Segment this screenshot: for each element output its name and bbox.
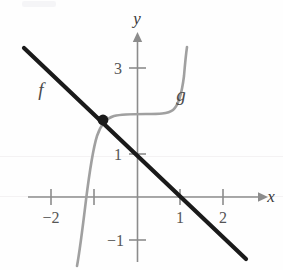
y-tick-label-3: 3 [114,60,122,77]
coordinate-plot: −2 1 2 3 1 −1 f g x y [0,0,283,270]
y-tick-label--1: −1 [107,232,124,249]
y-axis-label: y [131,9,141,28]
curve-g [77,47,187,266]
x-tick-label--2: −2 [42,209,59,226]
intersection-point [98,115,109,126]
curve-label-g: g [176,84,186,105]
x-tick-label-1: 1 [176,209,184,226]
graph-figure: −2 1 2 3 1 −1 f g x y [0,0,283,270]
curve-f [24,48,246,259]
curve-label-f: f [38,79,46,100]
axes-group [28,32,268,262]
x-tick-label-2: 2 [219,209,227,226]
x-axis-label: x [266,187,275,206]
y-axis-arrowhead [133,32,142,42]
y-tick-label-1: 1 [114,146,122,163]
